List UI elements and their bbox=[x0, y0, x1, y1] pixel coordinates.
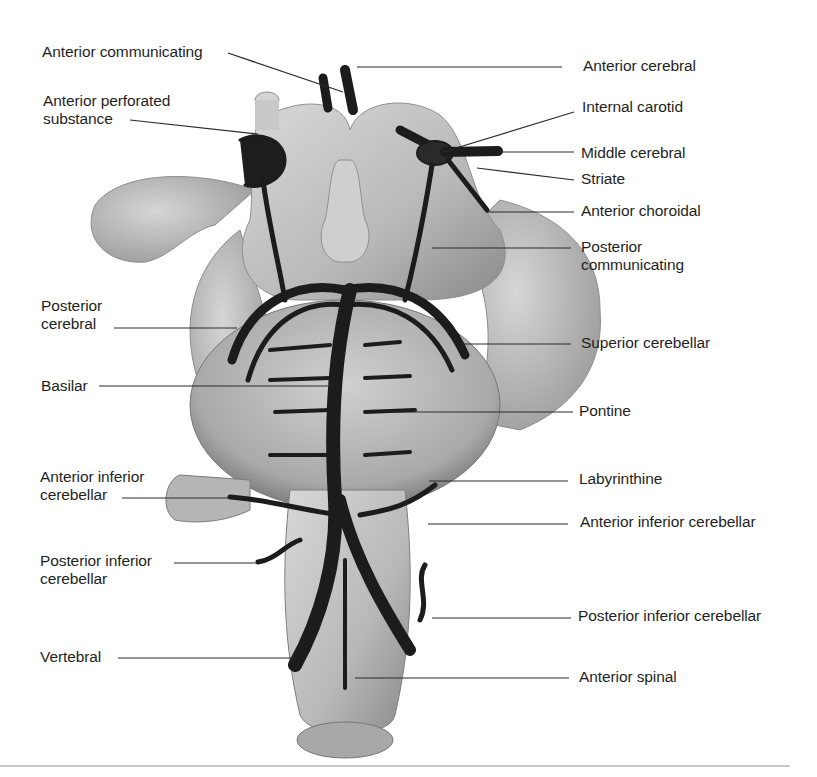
label-pontine: Pontine bbox=[579, 402, 631, 420]
label-basilar: Basilar bbox=[41, 377, 88, 395]
bottom-divider bbox=[0, 765, 790, 767]
label-anterior-choroidal: Anterior choroidal bbox=[581, 202, 701, 220]
arteries-diagram: Anterior communicating Anterior perforat… bbox=[0, 0, 817, 777]
label-middle-cerebral: Middle cerebral bbox=[581, 144, 685, 162]
label-vertebral: Vertebral bbox=[40, 648, 101, 666]
label-anterior-perforated-substance: Anterior perforated substance bbox=[43, 92, 170, 128]
label-internal-carotid: Internal carotid bbox=[582, 98, 683, 116]
label-striate: Striate bbox=[581, 170, 625, 188]
label-posterior-inferior-cerebellar-left: Posterior inferior cerebellar bbox=[40, 552, 152, 588]
label-anterior-cerebral: Anterior cerebral bbox=[583, 57, 696, 75]
label-anterior-spinal: Anterior spinal bbox=[579, 668, 677, 686]
label-posterior-communicating: Posterior communicating bbox=[581, 238, 684, 274]
label-posterior-cerebral: Posterior cerebral bbox=[41, 297, 102, 333]
label-labyrinthine: Labyrinthine bbox=[579, 470, 662, 488]
label-anterior-inferior-cerebellar-left: Anterior inferior cerebellar bbox=[40, 468, 144, 504]
label-anterior-communicating: Anterior communicating bbox=[42, 43, 203, 61]
label-superior-cerebellar: Superior cerebellar bbox=[581, 334, 710, 352]
label-posterior-inferior-cerebellar-right: Posterior inferior cerebellar bbox=[578, 607, 761, 625]
label-anterior-inferior-cerebellar-right: Anterior inferior cerebellar bbox=[580, 513, 756, 531]
